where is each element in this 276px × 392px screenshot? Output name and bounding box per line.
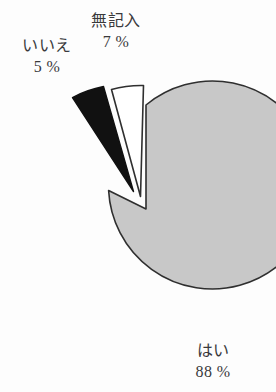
pie-label-mukinyu: 無記入 7 % [85, 12, 147, 51]
pie-label-mukinyu-percent: 7 % [85, 33, 147, 51]
pie-label-mukinyu-name: 無記入 [85, 12, 147, 30]
pie-label-hai-name: はい [182, 342, 244, 360]
pie-chart-figure: 無記入 7 % いいえ 5 % はい 88 % [0, 0, 276, 392]
pie-label-hai-percent: 88 % [182, 363, 244, 381]
pie-label-hai: はい 88 % [182, 342, 244, 381]
pie-label-iie-name: いいえ [16, 37, 78, 55]
pie-label-iie-percent: 5 % [16, 58, 78, 76]
pie-label-iie: いいえ 5 % [16, 37, 78, 76]
